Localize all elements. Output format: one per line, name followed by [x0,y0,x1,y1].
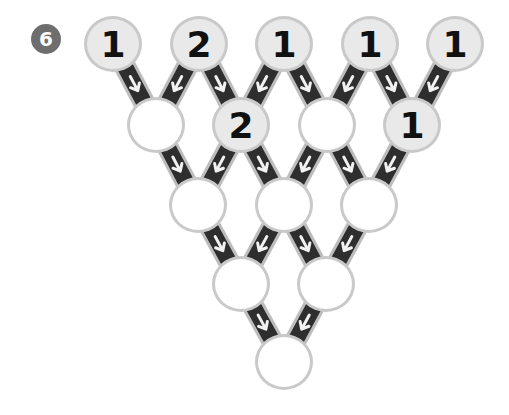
answer-cell-r5-c1[interactable] [255,334,313,390]
puzzle-number-badge: 6 [31,24,61,54]
answer-cell-r4-c1[interactable] [212,256,270,312]
addition-pyramid-puzzle: 6 1211121 [0,0,509,415]
given-number-r2-c2: 2 [212,97,270,153]
answer-cell-r3-c3[interactable] [340,177,398,233]
answer-cell-r3-c1[interactable] [169,177,227,233]
answer-cell-r4-c2[interactable] [297,256,355,312]
given-number-r1-c5: 1 [426,16,484,72]
given-number-r1-c3: 1 [255,16,313,72]
answer-cell-r2-c3[interactable] [298,97,356,153]
given-number-r1-c1: 1 [84,16,142,72]
answer-cell-r2-c1[interactable] [127,97,185,153]
given-number-r1-c2: 2 [170,16,228,72]
given-number-r1-c4: 1 [341,16,399,72]
given-number-r2-c4: 1 [383,97,441,153]
answer-cell-r3-c2[interactable] [255,177,313,233]
